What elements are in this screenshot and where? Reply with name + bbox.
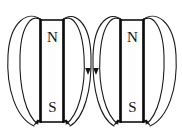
right-magnet: N S: [120, 20, 144, 122]
right-magnet-south-label: S: [128, 99, 136, 115]
magnetic-field-diagram: N S N S: [0, 0, 182, 139]
field-line-left-outer: [8, 16, 43, 126]
arrow-down-left-gap: [85, 68, 91, 75]
left-magnet-south-label: S: [48, 99, 56, 115]
right-magnet-north-label: N: [127, 29, 138, 45]
arrow-down-right-gap: [93, 68, 99, 75]
left-magnet: N S: [40, 20, 64, 122]
gap-arrowheads: [85, 68, 99, 75]
diagram-canvas: N S N S: [0, 0, 182, 139]
field-line-right-outer: [141, 16, 176, 126]
left-magnet-north-label: N: [47, 29, 58, 45]
